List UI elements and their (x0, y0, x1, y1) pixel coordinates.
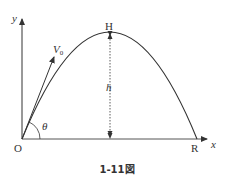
peak-label: H (105, 20, 113, 32)
height-arrow-top-head (108, 33, 113, 39)
angle-arc (29, 122, 40, 139)
figure-caption: 1-11図 (99, 164, 134, 175)
y-axis-label: y (11, 12, 17, 24)
origin-label: O (14, 142, 22, 154)
height-arrow-bottom-head (108, 133, 113, 139)
range-point-label: R (191, 142, 199, 154)
initial-velocity-subscript: 0 (60, 49, 64, 57)
initial-velocity-arrow (22, 57, 54, 139)
initial-velocity-label: V0 (53, 43, 64, 57)
height-label: h (106, 81, 112, 93)
angle-label: θ (42, 120, 48, 132)
x-axis-label: x (210, 138, 216, 150)
projectile-motion-diagram: y x O H R h V0 θ 1-11図 (0, 0, 235, 187)
